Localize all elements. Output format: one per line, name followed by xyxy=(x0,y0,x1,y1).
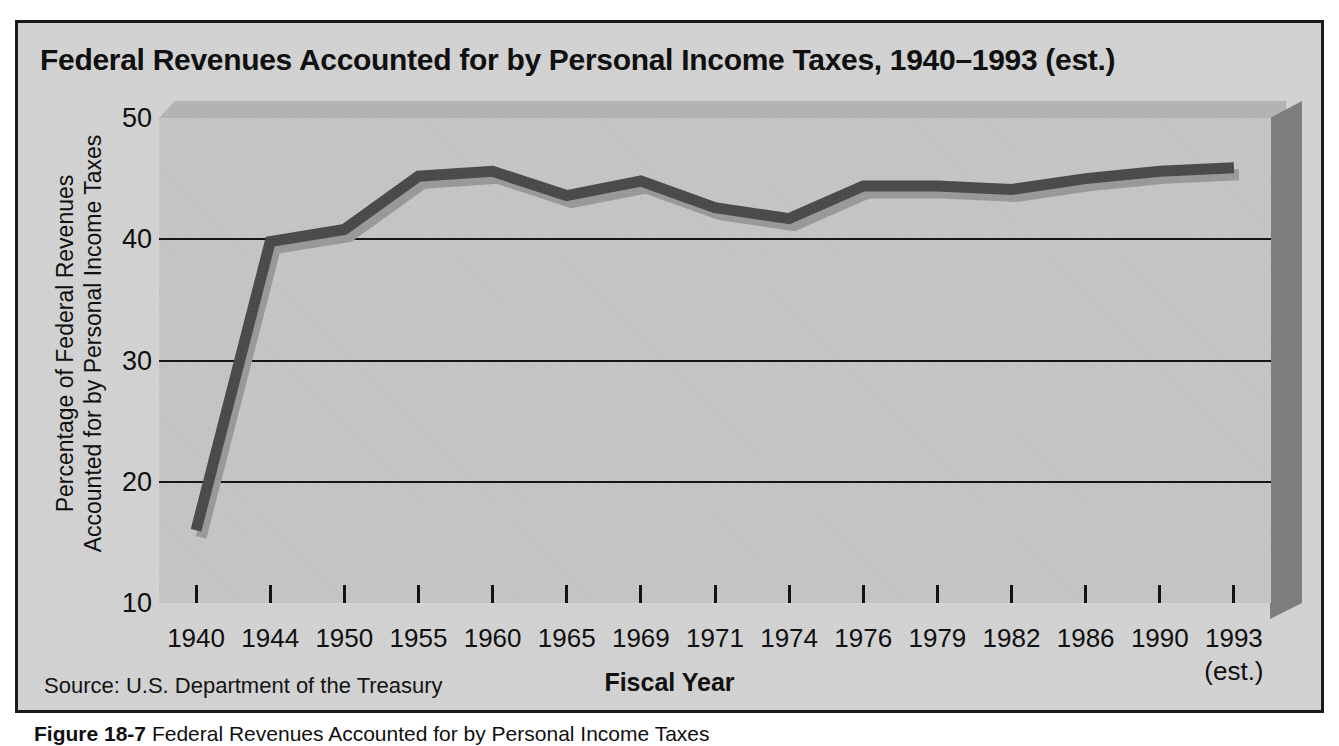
figure-panel: Federal Revenues Accounted for by Person… xyxy=(15,20,1324,713)
y-tick-label-40: 40 xyxy=(122,224,152,255)
data-line-shadow xyxy=(201,175,1239,538)
plot-right-bevel xyxy=(1270,101,1302,619)
x-tick-label-1974: 1974 xyxy=(760,623,818,654)
y-tick-label-20: 20 xyxy=(122,466,152,497)
y-axis-title-line-1: Percentage of Federal Revenues xyxy=(52,175,79,513)
x-tick-label-1965: 1965 xyxy=(538,623,596,654)
x-tick-label-1971: 1971 xyxy=(686,623,744,654)
y-axis-title: Percentage of Federal Revenues Accounted… xyxy=(46,101,112,586)
y-tick-label-50: 50 xyxy=(122,103,152,134)
figure-caption: Figure 18-7 Federal Revenues Accounted f… xyxy=(34,722,710,746)
data-line xyxy=(196,168,1234,531)
y-tick-label-30: 30 xyxy=(122,345,152,376)
x-tick-label-1950: 1950 xyxy=(315,623,373,654)
x-tick-label-1979: 1979 xyxy=(908,623,966,654)
data-line-series xyxy=(159,118,1271,603)
page-title: Federal Revenues Accounted for by Person… xyxy=(40,43,1115,77)
plot-area-3d: 1020304050 xyxy=(159,101,1302,619)
x-tick-label-1982: 1982 xyxy=(983,623,1041,654)
figure-caption-text: Federal Revenues Accounted for by Person… xyxy=(152,722,710,745)
x-tick-label-1986: 1986 xyxy=(1057,623,1115,654)
x-tick-label-1976: 1976 xyxy=(834,623,892,654)
y-tick-label-10: 10 xyxy=(122,588,152,619)
x-tick-label-1990: 1990 xyxy=(1131,623,1189,654)
source-note: Source: U.S. Department of the Treasury xyxy=(44,673,443,699)
y-axis-title-line-2: Accounted for by Personal Income Taxes xyxy=(80,135,107,553)
plot-top-bevel xyxy=(159,101,1286,118)
x-tick-label-1960: 1960 xyxy=(464,623,522,654)
x-tick-label-1969: 1969 xyxy=(612,623,670,654)
x-tick-label-1944: 1944 xyxy=(241,623,299,654)
x-tick-label-1955: 1955 xyxy=(390,623,448,654)
figure-caption-label: Figure 18-7 xyxy=(34,722,146,745)
x-tick-label-1940: 1940 xyxy=(167,623,225,654)
plot-canvas xyxy=(159,118,1271,603)
